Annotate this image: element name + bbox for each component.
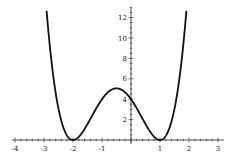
y-tick-label: 6 <box>123 75 128 83</box>
x-tick-label: -2 <box>70 145 77 153</box>
x-tick-label: -1 <box>99 145 106 153</box>
x-tick-label: 2 <box>187 145 191 153</box>
y-tick-label: 4 <box>123 96 128 104</box>
y-tick-label: 2 <box>123 116 127 124</box>
x-tick-label: -4 <box>12 145 19 153</box>
chart: -4-3-2-112324681012 <box>0 0 233 156</box>
y-tick-label: 10 <box>118 35 127 43</box>
series-line-f <box>47 11 187 140</box>
x-tick-label: 1 <box>158 145 162 153</box>
ticks <box>15 7 218 142</box>
x-tick-label: -3 <box>41 145 48 153</box>
y-tick-label: 8 <box>123 55 127 63</box>
y-tick-label: 12 <box>118 14 127 22</box>
axes <box>12 7 224 144</box>
tick-labels: -4-3-2-112324681012 <box>12 14 221 153</box>
x-tick-label: 3 <box>216 145 220 153</box>
